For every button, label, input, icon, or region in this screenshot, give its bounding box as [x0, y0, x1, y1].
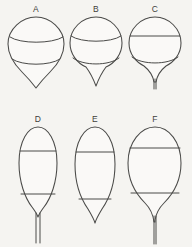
- specimen-label-d: D: [35, 114, 41, 124]
- specimen-panel-a: A: [8, 4, 64, 88]
- figure-plate: A B C D E: [0, 0, 192, 247]
- specimen-outline-e: [75, 127, 115, 223]
- specimen-label-c: C: [152, 4, 158, 14]
- specimen-label-e: E: [92, 114, 98, 124]
- specimen-outline-b: [70, 17, 122, 86]
- specimen-label-a: A: [33, 4, 39, 14]
- specimen-panel-c: C: [129, 4, 181, 89]
- specimen-panel-e: E: [75, 114, 115, 223]
- specimen-panel-b: B: [70, 4, 122, 86]
- specimen-outline-f: [128, 127, 181, 222]
- specimen-panel-d: D: [19, 114, 57, 243]
- specimen-label-b: B: [93, 4, 99, 14]
- specimen-plate-svg: A B C D E: [0, 0, 192, 247]
- specimen-outline-c: [129, 17, 181, 82]
- specimen-panel-f: F: [128, 114, 181, 244]
- specimen-outline-a: [8, 17, 64, 88]
- specimen-outline-d: [19, 127, 57, 217]
- specimen-label-f: F: [152, 114, 158, 124]
